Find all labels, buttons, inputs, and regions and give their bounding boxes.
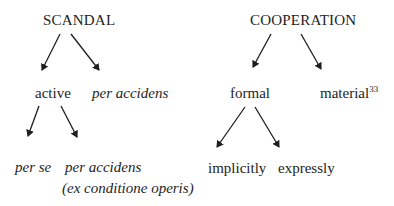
- active-per-accidens: per accidens: [65, 160, 141, 175]
- active-per-accidens-sublabel: (ex conditione operis): [62, 181, 194, 196]
- cooperation-root: COOPERATION: [250, 13, 356, 28]
- arrow-scandal-per-accidens: [71, 34, 99, 70]
- footnote-marker: 33: [369, 84, 378, 94]
- arrow-active-per-se: [28, 106, 39, 136]
- cooperation-material: material33: [320, 86, 378, 101]
- arrow-cooperation-formal: [253, 34, 271, 67]
- arrow-formal-implicitly: [217, 107, 245, 147]
- arrow-active-per-accidens: [61, 106, 77, 137]
- formal-expressly: expressly: [278, 161, 335, 176]
- arrow-scandal-active: [42, 34, 60, 70]
- arrow-cooperation-material: [301, 34, 321, 69]
- cooperation-formal: formal: [230, 86, 270, 101]
- active-per-se: per se: [15, 160, 51, 175]
- scandal-root: SCANDAL: [43, 13, 115, 28]
- arrow-formal-expressly: [255, 107, 279, 147]
- formal-implicitly: implicitly: [208, 161, 266, 176]
- scandal-active: active: [35, 86, 71, 101]
- scandal-per-accidens: per accidens: [92, 86, 168, 101]
